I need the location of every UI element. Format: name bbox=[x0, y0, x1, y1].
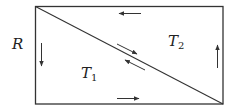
diagonal-line bbox=[36, 7, 224, 105]
triangle-2-label: T2 bbox=[168, 32, 184, 51]
diagonal-upper-arrow-icon bbox=[117, 44, 137, 54]
diagram-canvas: R T1 T2 bbox=[0, 0, 233, 111]
triangle-1-label: T1 bbox=[81, 64, 97, 83]
region-label: R bbox=[11, 35, 23, 53]
